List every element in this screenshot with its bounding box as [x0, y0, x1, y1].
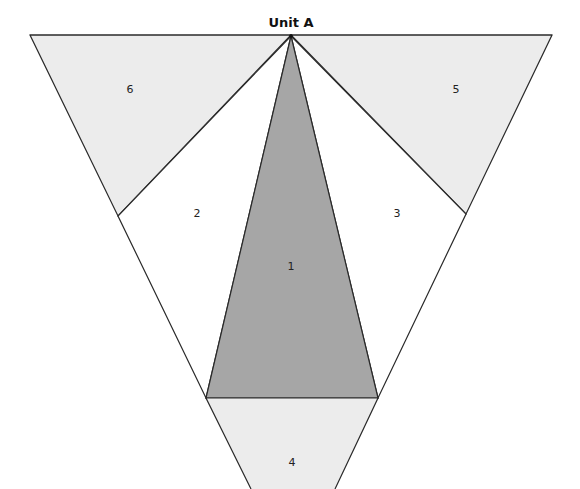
diagram-title: Unit A — [268, 15, 313, 30]
piece-label-3: 3 — [394, 207, 401, 220]
piece-label-4: 4 — [289, 456, 296, 469]
piece-label-2: 2 — [194, 207, 201, 220]
piece-4 — [206, 398, 378, 489]
piece-label-1: 1 — [288, 260, 295, 273]
apex-point — [289, 34, 293, 38]
piece-label-6: 6 — [127, 83, 134, 96]
foundation-piecing-diagram: Unit A 6 5 2 3 1 4 — [0, 0, 580, 489]
piece-label-5: 5 — [453, 83, 460, 96]
